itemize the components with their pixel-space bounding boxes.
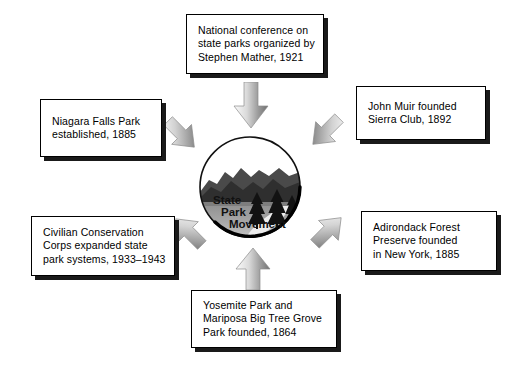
emblem-label-line-3: Movement — [229, 218, 286, 230]
arrow-up-from-yosemite — [234, 248, 272, 292]
fact-box-yosemite[interactable]: Yosemite Park and Mariposa Big Tree Grov… — [191, 290, 337, 348]
fact-box-muir[interactable]: John Muir founded Sierra Club, 1892 — [356, 86, 486, 140]
emblem-label-line-2: Park — [221, 206, 247, 218]
fact-box-civilian-conservation-corps-text: Civilian Conservation Corps expanded sta… — [32, 226, 166, 266]
fact-box-mather[interactable]: National conference on state parks organ… — [186, 14, 324, 74]
arrow-downleft-from-muir — [306, 112, 348, 154]
arrow-downright-from-niagara — [162, 112, 204, 154]
fact-box-muir-text: John Muir founded Sierra Club, 1892 — [357, 100, 457, 126]
emblem-label-line-1: State — [213, 194, 241, 206]
fact-box-adirondack[interactable]: Adirondack Forest Preserve founded in Ne… — [361, 211, 497, 271]
arrow-down-from-mather — [232, 82, 270, 130]
fact-box-mather-text: National conference on state parks organ… — [187, 24, 315, 64]
state-park-emblem: State Park Movement — [199, 132, 303, 244]
diagram-canvas: State Park Movement National conference … — [0, 0, 524, 368]
fact-box-niagara[interactable]: Niagara Falls Park established, 1885 — [40, 99, 162, 157]
fact-box-civilian-conservation-corps[interactable]: Civilian Conservation Corps expanded sta… — [31, 216, 175, 276]
fact-box-niagara-text: Niagara Falls Park established, 1885 — [41, 115, 140, 141]
fact-box-yosemite-text: Yosemite Park and Mariposa Big Tree Grov… — [192, 299, 322, 339]
arrow-upleft-from-adirondack — [306, 208, 348, 250]
fact-box-adirondack-text: Adirondack Forest Preserve founded in Ne… — [362, 221, 460, 261]
